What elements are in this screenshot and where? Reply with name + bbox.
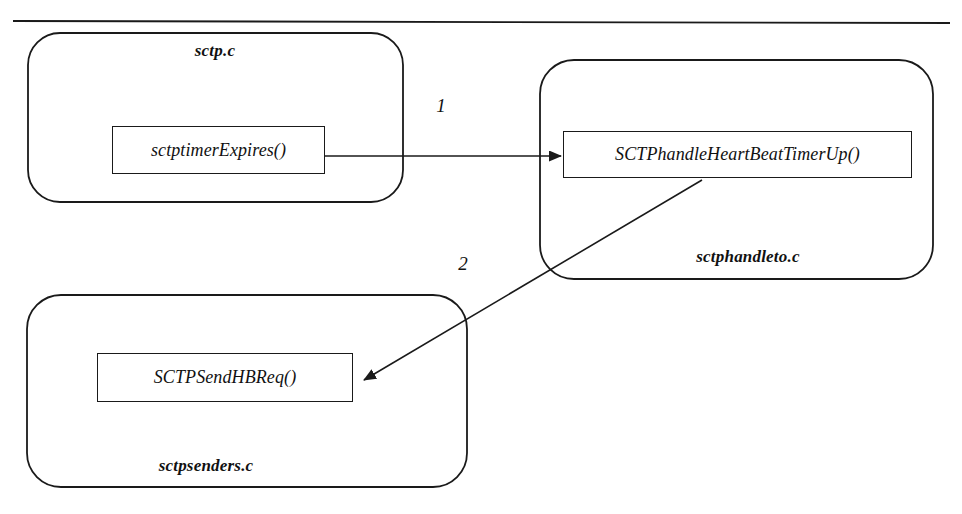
function-box-SCTPhandleHeartBeatTimerUp[interactable]: SCTPhandleHeartBeatTimerUp() bbox=[563, 131, 912, 178]
diagram-vector-layer bbox=[0, 0, 962, 514]
edge-sequence-label-1: 1 bbox=[436, 95, 446, 117]
function-box-SCTPSendHBReq[interactable]: SCTPSendHBReq() bbox=[97, 353, 353, 402]
edge-sequence-label-2: 2 bbox=[458, 253, 468, 275]
function-name-label: SCTPSendHBReq() bbox=[154, 367, 296, 388]
module-label-sctp-c: sctp.c bbox=[195, 41, 235, 61]
function-name-label: sctptimerExpires() bbox=[151, 140, 286, 161]
top-horizontal-rule bbox=[13, 21, 950, 23]
diagram-canvas: sctp.c sctptimerExpires() sctphandleto.c… bbox=[0, 0, 962, 514]
call-arrow-2 bbox=[364, 180, 702, 380]
module-label-sctphandleto-c: sctphandleto.c bbox=[696, 247, 799, 267]
module-label-sctpsenders-c: sctpsenders.c bbox=[159, 456, 254, 476]
function-box-sctptimerExpires[interactable]: sctptimerExpires() bbox=[112, 126, 325, 174]
function-name-label: SCTPhandleHeartBeatTimerUp() bbox=[615, 144, 860, 165]
